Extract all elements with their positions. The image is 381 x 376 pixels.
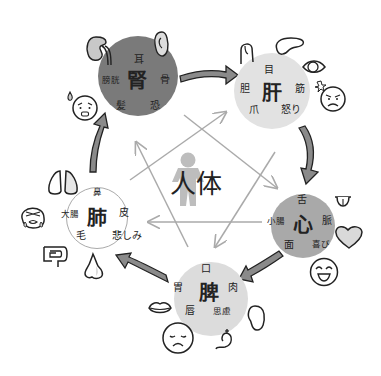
bean-icon [246,304,266,332]
lung-bottom-right-label: 悲しみ [112,231,142,241]
liver-right-label: 筋 [295,84,305,94]
angry-face-icon [312,78,348,114]
lung-left-label: 大腸 [61,210,79,219]
large-intestine-icon [40,243,70,269]
lung-bottom-left-label: 毛 [76,231,86,241]
spleen-top-label: 口 [201,264,211,274]
heart-name: 心 [293,215,313,235]
lung-name: 肺 [87,208,107,228]
heart-right-label: 脈 [322,216,332,226]
stomach-icon [213,327,235,351]
ear-icon [153,30,171,58]
kidney-left-label: 膀胱 [102,76,120,85]
fingernail-icon [237,40,257,66]
kidney-icon [84,34,114,66]
liver-bottom-left-label: 爪 [249,105,259,115]
lungs-icon [46,167,80,197]
eye-icon [301,59,327,75]
spleen-right-label: 肉 [228,283,238,293]
kidney-name: 腎 [127,71,147,91]
heart-top-label: 舌 [297,195,307,205]
nose-icon [82,252,106,282]
spleen-left-label: 胃 [173,283,183,293]
liver-top-label: 目 [264,65,274,75]
heart-bottom-right-label: 喜び [312,240,330,249]
heart-icon [334,224,364,250]
kidney-bottom-left-label: 髪 [116,101,126,111]
kidney-right-label: 骨 [160,75,170,85]
liver-name: 肝 [262,83,282,103]
lung-top-label: 鼻 [93,188,102,197]
spleen-bottom-left-label: 唇 [185,306,195,316]
center-label: 人体 [170,171,222,197]
lung-right-label: 皮 [119,208,129,218]
kidney-top-label: 耳 [134,55,144,65]
lips-icon [147,300,173,316]
liver-icon [273,36,307,58]
heart-bottom-left-label: 面 [284,240,294,250]
spleen-bottom-right-label: 思慮 [213,307,231,316]
kidney-bottom-right-label: 恐 [150,101,160,111]
crying-face-icon [17,202,49,232]
anxious-face-icon [64,88,100,122]
tongue-icon [333,194,353,212]
heart-left-label: 小腸 [267,217,285,226]
liver-bottom-right-label: 怒り [281,105,301,115]
spleen-name: 脾 [199,283,219,303]
laughing-face-icon [308,256,340,288]
sad-face-icon [161,321,195,355]
liver-left-label: 胆 [240,84,250,94]
